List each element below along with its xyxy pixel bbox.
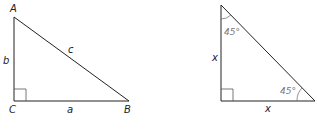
angle-arc-bottom-right	[297, 88, 302, 101]
right-angle-marker	[221, 89, 233, 101]
triangle-abc-outline	[14, 17, 129, 101]
vertex-label-b: B	[124, 104, 131, 115]
side-label-c: c	[68, 44, 74, 55]
side-label-left-x: x	[211, 52, 218, 63]
vertex-label-c: C	[9, 104, 16, 115]
diagram-canvas: A B C b a c 45° 45° x x	[0, 0, 317, 130]
right-angle-marker-c	[14, 89, 26, 101]
side-label-a: a	[67, 104, 73, 115]
angle-label-top: 45°	[224, 27, 240, 37]
angle-label-bottom-right: 45°	[280, 86, 296, 96]
triangle-45-45-90: 45° 45° x x	[211, 5, 315, 114]
triangle-45-outline	[221, 5, 315, 101]
side-label-bottom-x: x	[264, 103, 271, 114]
triangle-abc: A B C b a c	[3, 3, 131, 115]
vertex-label-a: A	[9, 3, 17, 14]
side-label-b: b	[3, 55, 9, 66]
angle-arc-top	[221, 15, 231, 19]
